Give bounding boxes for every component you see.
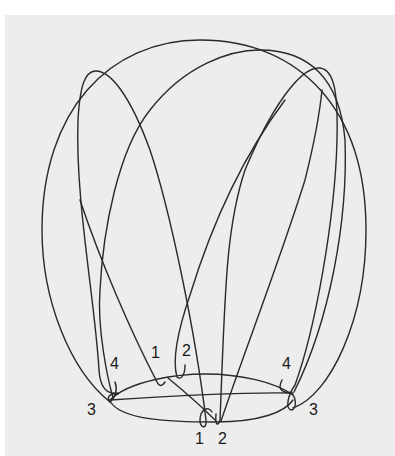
label-right-4: 4 bbox=[282, 355, 291, 372]
label-left-3: 3 bbox=[87, 401, 96, 418]
label-bottom-2: 2 bbox=[218, 430, 227, 447]
outer-arc bbox=[42, 40, 366, 408]
loop-diagram: 1 2 4 4 3 3 1 2 bbox=[0, 0, 395, 456]
label-left-4: 4 bbox=[110, 355, 119, 372]
label-top-2: 2 bbox=[182, 342, 191, 359]
ring-lower-rim bbox=[110, 400, 293, 422]
right-tall-loop bbox=[216, 68, 337, 424]
label-right-3: 3 bbox=[309, 401, 318, 418]
label-top-1: 1 bbox=[151, 344, 160, 361]
strand-cross-center bbox=[168, 378, 215, 420]
ring-chord bbox=[110, 393, 293, 400]
strand-bottom-2 bbox=[221, 90, 322, 421]
hook-right-4 bbox=[280, 380, 290, 393]
label-bottom-1: 1 bbox=[195, 430, 204, 447]
